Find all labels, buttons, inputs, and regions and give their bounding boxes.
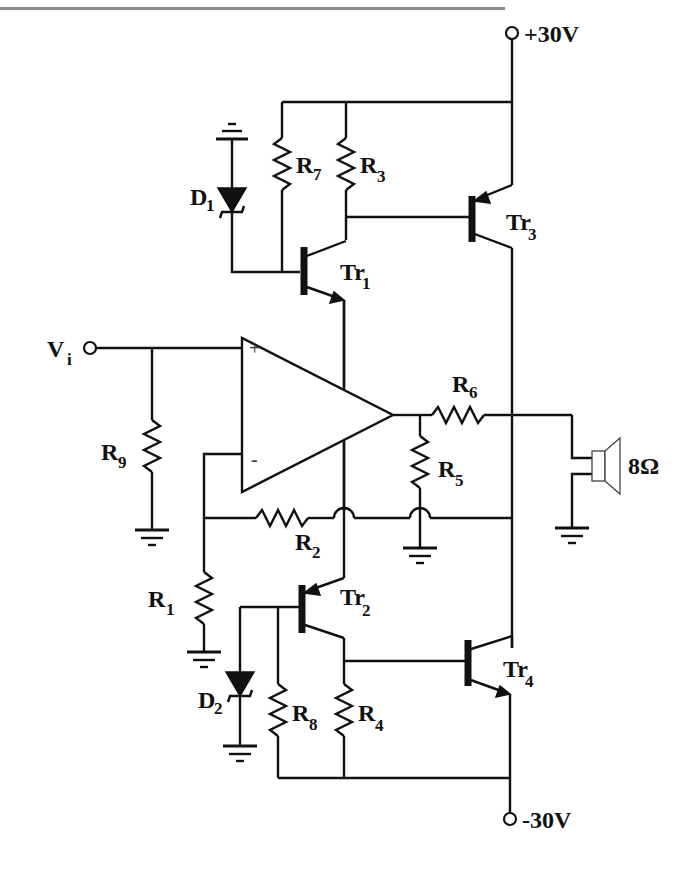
r8-label: R — [292, 700, 310, 726]
r4-subscript: 4 — [375, 716, 384, 735]
r2-subscript: 2 — [312, 543, 321, 562]
input-terminal[interactable] — [84, 342, 96, 354]
r5-label: R — [438, 456, 456, 482]
input-subscript: i — [67, 350, 72, 369]
r4-label: R — [358, 700, 376, 726]
opamp-minus-pin: - — [251, 448, 258, 470]
resistor-r8-icon — [270, 684, 286, 736]
d1-subscript: 1 — [206, 196, 215, 215]
tr2-subscript: 2 — [362, 601, 371, 620]
r7-label: R — [296, 152, 314, 178]
tr4-subscript: 4 — [525, 672, 534, 691]
ground-icon — [216, 124, 248, 139]
d1-label: D — [190, 184, 207, 210]
tr1-subscript: 1 — [362, 274, 371, 293]
ground-icon — [555, 528, 589, 543]
r6-label: R — [452, 371, 470, 397]
input-label: V — [47, 336, 65, 362]
ground-icon — [135, 530, 169, 545]
resistor-r9-icon — [144, 420, 160, 472]
load-label: 8Ω — [628, 453, 659, 479]
r6-subscript: 6 — [469, 383, 478, 402]
r3-label: R — [360, 152, 378, 178]
r3-subscript: 3 — [377, 167, 386, 186]
ground-icon — [403, 548, 437, 563]
speaker-icon — [592, 438, 620, 494]
positive-supply-label: +30V — [524, 21, 580, 47]
resistor-r4-icon — [336, 684, 352, 736]
d2-subscript: 2 — [214, 699, 223, 718]
r9-label: R — [101, 439, 119, 465]
positive-supply-terminal — [506, 27, 518, 100]
resistor-r3-icon — [338, 138, 354, 190]
r9-subscript: 9 — [118, 453, 127, 472]
resistor-r1-icon — [196, 572, 212, 624]
resistor-r7-icon — [274, 138, 290, 190]
resistor-r2-icon — [256, 510, 308, 526]
r1-subscript: 1 — [166, 600, 175, 619]
ground-icon — [223, 746, 257, 761]
circuit-schematic: +30V D 1 R 7 R 3 Tr 1 Tr 3 — [0, 0, 694, 869]
r2-label: R — [295, 529, 313, 555]
negative-supply-label: -30V — [522, 807, 572, 833]
r8-subscript: 8 — [309, 715, 318, 734]
ground-icon — [187, 652, 221, 667]
opamp-icon — [242, 338, 393, 492]
r1-label: R — [148, 586, 166, 612]
r7-subscript: 7 — [313, 165, 322, 184]
r5-subscript: 5 — [455, 471, 464, 490]
negative-supply-terminal — [504, 778, 516, 825]
opamp-plus-pin: + — [249, 337, 260, 359]
tr3-subscript: 3 — [528, 225, 537, 244]
d2-label: D — [198, 687, 215, 713]
resistor-r5-icon — [412, 436, 428, 488]
resistor-r6-icon — [432, 407, 484, 423]
transistor-tr2-icon — [302, 578, 344, 638]
